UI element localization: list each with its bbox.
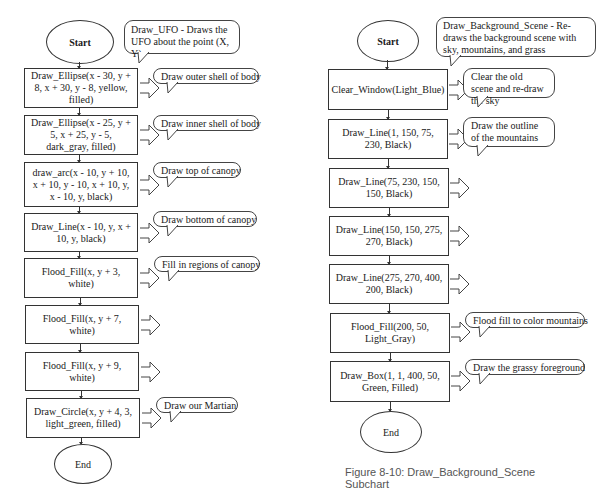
left-callout-5: Fill in regions of canopy <box>154 256 260 272</box>
arrow-right-icon <box>140 314 162 336</box>
left-step-6: Flood_Fill(x, y + 7, white) <box>25 305 139 344</box>
right-step-5: Draw_Line(275, 270, 400, 200, Black) <box>329 264 449 304</box>
right-callout-2: Draw the outline of the mountains <box>463 117 555 147</box>
left-step-4: Draw_Line(x - 10, y, x + 10, y, black) <box>24 213 138 252</box>
left-step-8: Draw_Circle(x, y + 4, 3, light_green, fi… <box>26 398 140 438</box>
left-header-callout: Draw_UFO - Draws the UFO about the point… <box>124 20 240 54</box>
right-step-2: Draw_Line(1, 150, 75, 230, Black) <box>328 119 448 159</box>
left-step-5: Flood_Fill(x, y + 3, white) <box>24 258 138 298</box>
arrow-right-icon <box>449 225 471 247</box>
left-callout-1: Draw outer shell of body <box>153 68 259 84</box>
right-step-3: Draw_Line(75, 230, 150, 150, Black) <box>329 168 449 208</box>
arrow-right-icon <box>140 361 162 383</box>
right-header-callout: Draw_Background_Scene - Re-draws the bac… <box>436 17 596 57</box>
left-callout-2: Draw inner shell of body <box>153 115 259 131</box>
callout-tail-icon <box>449 55 463 67</box>
left-callout-4: Draw bottom of canopy <box>153 211 257 227</box>
right-step-4: Draw_Line(150, 150, 275, 270, Black) <box>329 216 449 256</box>
left-step-3: draw_arc(x - 10, y + 10, x + 10, y - 10,… <box>24 162 138 207</box>
left-callout-3: Draw top of canopy <box>153 162 241 178</box>
right-step-1: Clear_Window(Light_Blue) <box>328 69 448 110</box>
arrow-right-icon <box>449 177 471 199</box>
right-callout-1: Clear the old scene and re-draw the sky <box>463 68 555 98</box>
right-step-6: Flood_Fill(200, 50, Light_Gray) <box>330 313 450 353</box>
right-step-7: Draw_Box(1, 1, 400, 50, Green, Filled) <box>330 361 450 402</box>
figure-caption: Figure 8-10: Draw_Background_Scene Subch… <box>345 466 582 490</box>
left-step-1: Draw_Ellipse(x - 30, y + 8, x + 30, y - … <box>24 68 138 108</box>
left-callout-8: Draw our Martian <box>156 397 238 413</box>
left-start-terminal: Start <box>46 20 114 64</box>
right-end-terminal: End <box>360 411 422 453</box>
right-callout-6: Flood fill to color mountains <box>465 312 585 328</box>
right-start-terminal: Start <box>357 20 419 62</box>
callout-tail-icon <box>137 52 151 64</box>
left-step-2: Draw_Ellipse(x - 25, y + 5, x + 25, y - … <box>24 115 138 155</box>
arrow-right-icon <box>449 273 471 295</box>
right-callout-7: Draw the grassy foreground <box>465 359 585 375</box>
left-end-terminal: End <box>54 444 112 484</box>
left-step-7: Flood_Fill(x, y + 9, white) <box>25 352 139 391</box>
